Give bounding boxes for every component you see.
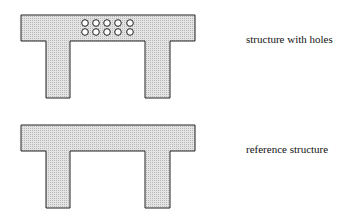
- label-structure-with-holes: structure with holes: [246, 33, 333, 45]
- label-reference-structure: reference structure: [246, 143, 328, 155]
- reference-structure-shape: [21, 125, 195, 208]
- structure-with-holes-shape: [21, 15, 195, 98]
